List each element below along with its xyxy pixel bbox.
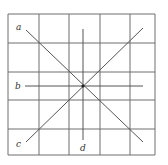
line-b-label: b — [15, 81, 21, 91]
intersection-point — [81, 84, 84, 87]
line-a-label: a — [16, 22, 21, 32]
line-d: d — [80, 29, 86, 153]
line-d-label: d — [80, 143, 86, 153]
line-b: b — [15, 81, 143, 91]
line-c-label: c — [16, 139, 21, 149]
line-a: a — [16, 22, 143, 142]
grid — [8, 14, 155, 155]
diagram-canvas: abcd — [0, 0, 168, 165]
line-c: c — [16, 28, 143, 149]
